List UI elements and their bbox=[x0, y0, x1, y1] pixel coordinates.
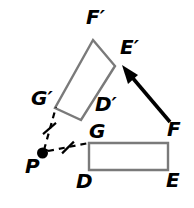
label-G-prime: G′ bbox=[31, 88, 53, 108]
label-G: G bbox=[89, 121, 105, 141]
label-F: F bbox=[167, 119, 181, 139]
arrow-shaft bbox=[131, 76, 170, 122]
rotation-direction-arrow bbox=[122, 65, 170, 122]
congruence-tick-left bbox=[43, 123, 56, 134]
label-P: P bbox=[25, 156, 40, 176]
label-E: E bbox=[166, 170, 180, 190]
geometry-figure-rotation: F′ E′ G′ D′ G F P D E bbox=[0, 0, 194, 208]
label-E-prime: E′ bbox=[120, 37, 139, 57]
label-D-prime: D′ bbox=[95, 94, 117, 114]
label-F-prime: F′ bbox=[86, 7, 105, 27]
label-D: D bbox=[76, 171, 93, 191]
rectangle-DEFG bbox=[89, 143, 168, 170]
